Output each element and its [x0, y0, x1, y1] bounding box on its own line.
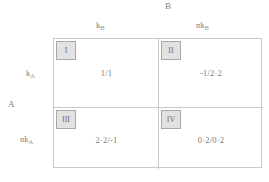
row-header-nk-a-sub: A — [29, 138, 34, 145]
quadrant-tag-iii: III — [56, 110, 76, 129]
payoff-value-ii: -1/2·2 — [159, 68, 263, 78]
matrix-cell-iii: III 2·2/-1 — [54, 108, 159, 169]
column-header-nk-b: nkB — [196, 20, 209, 30]
row-header-nk-a-base: nk — [20, 134, 29, 144]
payoff-value-iv: 0·2/0·2 — [159, 135, 263, 145]
row-header-k-a: kA — [26, 68, 35, 78]
matrix-cell-ii: II -1/2·2 — [159, 39, 263, 108]
column-header-nk-b-sub: B — [205, 24, 209, 31]
column-header-k-b-sub: B — [100, 24, 104, 31]
quadrant-tag-ii: II — [161, 41, 181, 60]
row-player-label: A — [8, 99, 15, 109]
quadrant-tag-iv: IV — [161, 110, 181, 129]
row-header-nk-a: nkA — [20, 134, 33, 144]
matrix-cell-i: I 1/1 — [54, 39, 159, 108]
payoff-matrix-figure: B A kB nkB kA nkA I 1/1 II -1/2·2 III 2·… — [0, 0, 269, 182]
payoff-value-iii: 2·2/-1 — [54, 135, 159, 145]
quadrant-tag-i: I — [56, 41, 76, 60]
matrix-grid: I 1/1 II -1/2·2 III 2·2/-1 IV 0·2/0·2 — [53, 38, 262, 168]
column-player-label: B — [165, 1, 171, 11]
column-header-nk-b-base: nk — [196, 20, 205, 30]
row-header-k-a-sub: A — [30, 72, 35, 79]
matrix-cell-iv: IV 0·2/0·2 — [159, 108, 263, 169]
payoff-value-i: 1/1 — [54, 68, 159, 78]
column-header-k-b: kB — [96, 20, 105, 30]
